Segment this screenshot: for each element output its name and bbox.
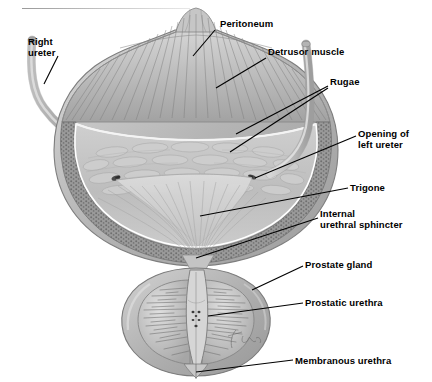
label-prostatic-urethra: Prostatic urethra — [305, 297, 383, 308]
label-opening-of-left-ureter: Opening of left ureter — [358, 128, 409, 150]
label-rugae: Rugae — [330, 76, 360, 87]
label-membranous-urethra: Membranous urethra — [295, 355, 391, 366]
leader-prostate-gland — [252, 266, 303, 290]
prostate-body — [122, 268, 271, 379]
label-peritoneum: Peritoneum — [220, 18, 273, 29]
leader-right-ureter — [44, 56, 58, 84]
label-detrusor-muscle: Detrusor muscle — [268, 46, 344, 57]
label-prostate-gland: Prostate gland — [305, 259, 372, 270]
label-internal-urethral-sphincter: Internal urethral sphincter — [320, 208, 403, 230]
label-right-ureter: Right ureter — [28, 36, 56, 58]
label-trigone: Trigone — [350, 182, 385, 193]
